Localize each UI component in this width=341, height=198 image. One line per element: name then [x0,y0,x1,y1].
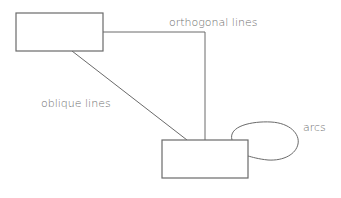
node-top-left[interactable] [16,13,103,51]
orthogonal-edge[interactable] [103,32,205,140]
label-oblique-lines: oblique lines [41,97,111,110]
diagram-canvas: orthogonal lines oblique lines arcs [0,0,341,198]
node-bottom-right[interactable] [162,140,248,178]
label-arcs: arcs [303,121,326,134]
oblique-edge[interactable] [72,51,187,140]
label-orthogonal-lines: orthogonal lines [169,16,257,29]
